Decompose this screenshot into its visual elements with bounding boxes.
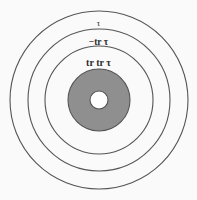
ring-label-middle: −tr τ (0, 38, 197, 48)
rings-svg (0, 0, 197, 200)
ring-label-inner: tr tr τ (0, 58, 197, 68)
concentric-ring-diagram: τ −tr τ tr tr τ (0, 0, 197, 200)
ring-5-inner-hole (90, 91, 108, 109)
ring-label-outer: τ (0, 19, 197, 28)
